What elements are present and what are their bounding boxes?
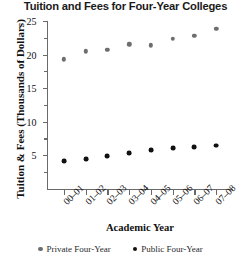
legend-label-private: Private Four-Year xyxy=(47,244,111,253)
x-axis-tick-label: 04–05 xyxy=(148,182,172,206)
data-point xyxy=(149,148,154,153)
y-axis-tick-label: 5 xyxy=(32,150,37,161)
chart-figure: Tuition and Fees for Four-Year Colleges … xyxy=(0,0,241,253)
x-axis-tick-label: 03–04 xyxy=(126,182,150,206)
data-point xyxy=(83,157,88,162)
y-axis-tick-label: 10 xyxy=(27,116,37,127)
legend-label-public: Public Four-Year xyxy=(141,244,203,253)
data-point xyxy=(192,145,197,150)
data-point xyxy=(149,43,153,47)
data-point xyxy=(127,151,132,156)
data-point xyxy=(214,143,219,148)
y-axis-tick-label: 25 xyxy=(27,16,37,27)
data-point xyxy=(171,37,175,41)
data-point xyxy=(170,146,175,151)
y-axis-tick-label: 20 xyxy=(27,49,37,60)
y-axis-tick xyxy=(43,155,48,156)
legend-marker-public-icon xyxy=(133,247,137,251)
x-axis-tick-label: 00–01 xyxy=(61,182,85,206)
y-axis-tick xyxy=(43,55,48,56)
x-axis-title: Academic Year xyxy=(47,222,233,233)
data-point xyxy=(62,57,66,61)
y-axis-title: Tuition & Fees (Thousands of Dollars) xyxy=(14,14,26,204)
y-axis-minor-tick xyxy=(44,71,47,72)
y-axis-tick xyxy=(43,122,48,123)
x-axis-tick-label: 07–08 xyxy=(213,182,237,206)
y-axis-minor-tick xyxy=(44,105,47,106)
x-axis-tick-label: 01–02 xyxy=(83,182,107,206)
x-axis-tick-label: 05–06 xyxy=(170,182,194,206)
legend-item-private: Private Four-Year xyxy=(38,244,111,253)
y-axis-minor-tick xyxy=(44,38,47,39)
y-axis-tick-label: 15 xyxy=(27,83,37,94)
legend-marker-private-icon xyxy=(38,247,42,251)
legend-item-public: Public Four-Year xyxy=(133,244,203,253)
y-axis-tick xyxy=(43,88,48,89)
chart-legend: Private Four-Year Public Four-Year xyxy=(0,244,241,253)
x-axis-tick-label: 02–03 xyxy=(104,182,128,206)
data-point xyxy=(192,34,196,38)
y-axis-minor-tick xyxy=(44,138,47,139)
y-axis-minor-tick xyxy=(44,172,47,173)
data-point xyxy=(127,42,131,46)
plot-area: 51015202500–0101–0202–0303–0404–0505–060… xyxy=(47,21,233,190)
y-axis-tick xyxy=(43,21,48,22)
x-axis-tick-label: 06–07 xyxy=(191,182,215,206)
data-point xyxy=(84,49,88,53)
data-point xyxy=(105,154,110,159)
data-point xyxy=(105,48,109,52)
data-point xyxy=(214,27,218,31)
chart-title: Tuition and Fees for Four-Year Colleges xyxy=(0,0,241,13)
data-point xyxy=(62,159,67,164)
y-axis-line xyxy=(47,21,48,190)
